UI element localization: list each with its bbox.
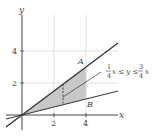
svg-text:x ≤ y ≤: x ≤ y ≤ [112, 68, 138, 76]
x-tick-4: 4 [83, 119, 88, 128]
svg-text:4: 4 [139, 72, 143, 80]
svg-text:4: 4 [107, 72, 111, 80]
inequality-annotation: 1 4 x ≤ y ≤ 3 4 x [106, 63, 149, 80]
region-diagram: y x 2 4 2 4 A B 1 4 x ≤ y ≤ 3 4 x [0, 0, 162, 140]
svg-text:1: 1 [107, 63, 111, 71]
point-a-label: A [77, 57, 84, 66]
y-tick-4: 4 [12, 47, 17, 56]
x-tick-2: 2 [51, 119, 56, 128]
y-axis-label: y [18, 5, 25, 15]
axes [6, 15, 118, 130]
point-b-label: B [86, 100, 93, 109]
x-axis-label: x [119, 110, 124, 120]
svg-text:x: x [145, 68, 149, 76]
svg-text:3: 3 [139, 63, 143, 71]
y-tick-2: 2 [12, 79, 17, 88]
